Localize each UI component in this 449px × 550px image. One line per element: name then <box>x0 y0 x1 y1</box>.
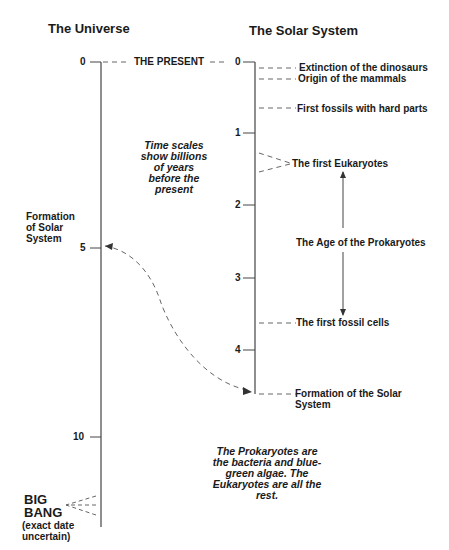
solar-tick-label-0: 0 <box>235 56 241 67</box>
event-formation-solar-system: Formation of the Solar System <box>295 388 405 410</box>
big-bang-line2: BANG <box>24 506 62 519</box>
universe-tick-label-0: 0 <box>80 56 86 67</box>
formation-link-arrowhead-right <box>243 387 252 395</box>
solar-tick-label-2: 2 <box>235 199 241 210</box>
solar-system-title: The Solar System <box>249 23 358 38</box>
formation-link-curve <box>105 246 247 390</box>
universe-tick-label-5: 5 <box>80 242 86 253</box>
solar-tick-label-3: 3 <box>235 272 241 283</box>
event-mammals: Origin of the mammals <box>298 73 406 84</box>
present-label: THE PRESENT <box>134 56 204 67</box>
prokaryotes-note: The Prokaryotes are the bacteria and blu… <box>212 446 322 501</box>
bigbang-dash-3 <box>66 505 96 515</box>
bigbang-dash-1 <box>66 496 96 505</box>
time-scales-note: Time scales show billions of years befor… <box>137 140 211 195</box>
leader-eukaryotes-lower <box>259 164 290 172</box>
prokaryote-age-label: The Age of the Prokaryotes <box>296 237 426 248</box>
event-hard-parts: First fossils with hard parts <box>297 103 428 114</box>
event-first-eukaryotes: The first Eukaryotes <box>292 158 388 169</box>
formation-link-arrowhead-left <box>105 243 113 250</box>
universe-tick-label-10: 10 <box>73 431 84 442</box>
big-bang-uncertain-note: (exact date uncertain) <box>22 520 82 542</box>
universe-title: The Universe <box>48 21 130 36</box>
event-first-fossil-cells: The first fossil cells <box>296 317 389 328</box>
leader-eukaryotes-upper <box>259 153 290 163</box>
solar-tick-label-1: 1 <box>235 127 241 138</box>
event-dinosaurs: Extinction of the dinosaurs <box>299 62 428 73</box>
formation-solar-system-label: Formation of Solar System <box>26 211 76 244</box>
solar-tick-label-4: 4 <box>235 344 241 355</box>
